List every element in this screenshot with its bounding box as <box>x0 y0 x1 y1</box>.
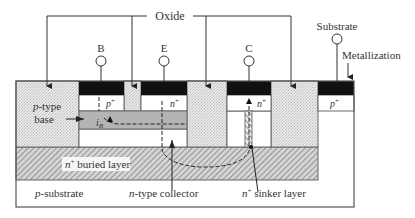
emitter-terminal-label: E <box>161 42 168 54</box>
sinker-dot <box>249 145 253 149</box>
collector-metal-contact <box>227 81 271 95</box>
n-plus-emitter <box>141 95 187 111</box>
n-type-collector-label: n-type collector <box>129 187 199 199</box>
base-terminal <box>96 56 106 81</box>
p-plus-base-contact <box>79 95 124 111</box>
n-plus-buried-layer <box>16 147 318 180</box>
oxide-between-c-sub <box>271 81 318 147</box>
n-type-collector-region <box>79 129 187 147</box>
oxide-label: Oxide <box>155 9 184 23</box>
oxide-between-e-c <box>187 81 227 147</box>
substrate-metal-contact <box>318 81 354 95</box>
oxide-leader-lines <box>47 16 291 86</box>
emitter-terminal <box>159 56 169 81</box>
buried-layer-label: n+ buried layer <box>65 158 130 170</box>
substrate-terminal <box>332 34 342 81</box>
metallization-label: Metallization <box>342 49 401 61</box>
substrate-label: Substrate <box>317 20 358 32</box>
collector-terminal <box>244 56 254 81</box>
emitter-metal-contact <box>141 81 187 95</box>
collector-terminal-label: C <box>245 42 252 54</box>
bjt-cross-section-diagram: Oxide Substrate Metallization B E C p-ty… <box>0 0 415 218</box>
sinker-layer-label: n+ sinker layer <box>242 187 306 199</box>
p-type-label: p-type <box>32 100 61 112</box>
base-label: base <box>34 113 54 125</box>
n-plus-sinker-layer <box>245 111 252 147</box>
base-metal-contact <box>79 81 124 95</box>
p-substrate-label: p-substrate <box>34 187 83 199</box>
base-terminal-label: B <box>97 42 104 54</box>
